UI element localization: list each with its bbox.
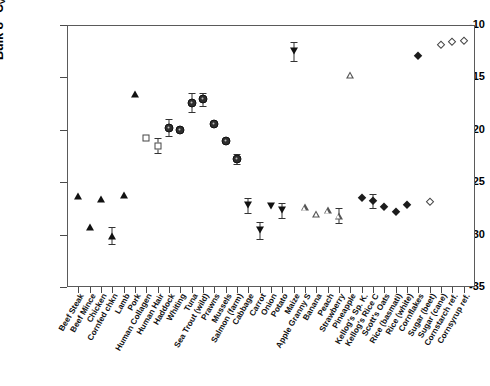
data-point-marker — [187, 98, 196, 107]
error-bar-cap — [290, 61, 297, 62]
error-bar-cap — [256, 239, 263, 240]
data-point-marker — [74, 192, 82, 199]
data-point-marker — [210, 119, 219, 128]
data-point-marker — [154, 142, 161, 149]
data-point-marker — [346, 72, 354, 79]
error-bar-cap — [370, 194, 377, 195]
error-bar-cap — [370, 208, 377, 209]
data-point-marker — [199, 95, 208, 104]
data-point-marker — [312, 210, 320, 217]
data-point-marker — [244, 202, 252, 209]
error-bar-cap — [154, 153, 161, 154]
data-point-marker — [131, 91, 139, 98]
data-point-marker — [267, 203, 275, 210]
y-tick-mark — [60, 25, 67, 26]
error-bar-cap — [154, 138, 161, 139]
y-tick-mark — [60, 287, 67, 288]
error-bar-cap — [290, 42, 297, 43]
y-tick-mark — [60, 77, 67, 78]
y-tick-mark — [60, 235, 67, 236]
data-point-marker — [278, 207, 286, 214]
error-bar-cap — [234, 164, 241, 165]
error-bar-cap — [188, 93, 195, 94]
data-point-marker — [221, 137, 230, 146]
data-point-marker — [290, 48, 298, 55]
data-point-marker — [256, 227, 264, 234]
error-bar-cap — [188, 112, 195, 113]
data-point-marker — [176, 125, 185, 134]
error-bar-cap — [279, 203, 286, 204]
error-bar-cap — [109, 227, 116, 228]
error-bar-cap — [336, 223, 343, 224]
data-point-marker — [97, 195, 105, 202]
error-bar-cap — [279, 218, 286, 219]
error-bar-cap — [200, 106, 207, 107]
data-point-marker — [120, 191, 128, 198]
y-axis-title: Bulk δ13CVPDB [‰] ± 2σ — [0, 0, 7, 60]
data-point-marker — [324, 207, 332, 214]
y-tick-mark — [60, 182, 67, 183]
data-point-marker — [143, 135, 150, 142]
error-bar-cap — [109, 244, 116, 245]
error-bar-cap — [245, 198, 252, 199]
y-tick-mark — [60, 130, 67, 131]
error-bar-cap — [256, 222, 263, 223]
data-point-marker — [165, 123, 174, 132]
data-point-marker — [108, 232, 116, 239]
data-point-marker — [301, 204, 309, 211]
data-point-marker — [335, 212, 343, 219]
error-bar-cap — [245, 213, 252, 214]
data-point-marker — [233, 155, 242, 164]
error-bar-cap — [336, 208, 343, 209]
error-bar-cap — [166, 136, 173, 137]
error-bar-cap — [166, 119, 173, 120]
data-point-marker — [86, 224, 94, 231]
